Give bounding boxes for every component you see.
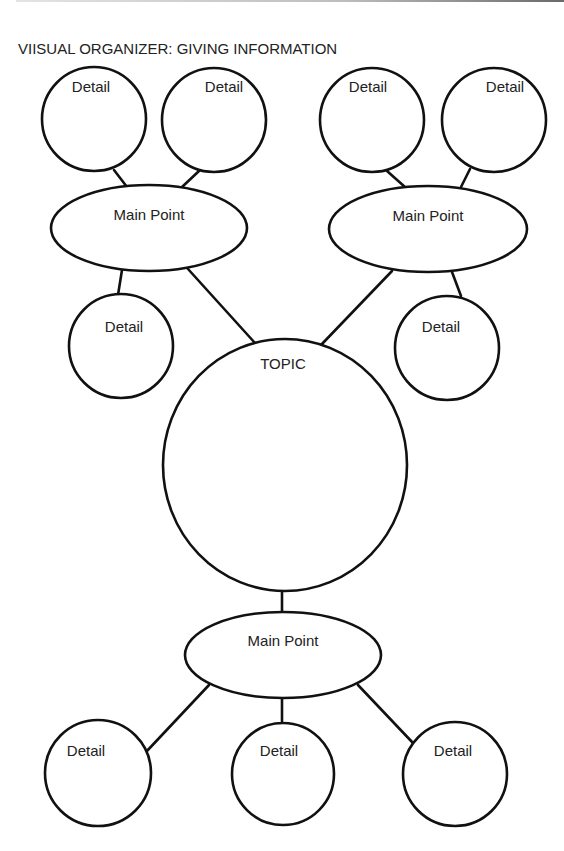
detail-label: Detail [260, 742, 298, 759]
detail-label: Detail [67, 742, 105, 759]
connector-detail-to-main-point [387, 171, 405, 187]
graphic-organizer-diagram: Detail Detail Main Point Detail Detail D… [0, 0, 564, 851]
topic-circle[interactable] [163, 339, 407, 591]
detail-circle[interactable] [232, 723, 334, 825]
cluster-top-right: Detail Detail Main Point Detail [320, 68, 546, 400]
detail-circle[interactable] [403, 722, 507, 826]
detail-label: Detail [72, 78, 110, 95]
detail-circle[interactable] [45, 720, 151, 826]
connector-detail-to-main-point [461, 169, 470, 187]
cluster-bottom: Main Point Detail Detail Detail [45, 612, 507, 826]
detail-label: Detail [205, 78, 243, 95]
detail-label: Detail [434, 742, 472, 759]
topic-node: TOPIC [163, 339, 407, 591]
connector-main-point-to-detail [358, 685, 413, 743]
connector-main-point-to-detail [452, 272, 461, 296]
connector-main-point-to-topic [188, 269, 255, 343]
topic-label: TOPIC [260, 355, 306, 372]
main-point-ellipse[interactable] [329, 186, 527, 272]
detail-label: Detail [349, 78, 387, 95]
main-point-label: Main Point [393, 207, 465, 224]
connector-main-point-to-detail [146, 685, 209, 752]
detail-circle[interactable] [395, 296, 499, 400]
connector-detail-to-main-point [114, 170, 127, 187]
main-point-ellipse[interactable] [185, 612, 381, 698]
detail-circle[interactable] [69, 294, 173, 398]
detail-label: Detail [105, 318, 143, 335]
cluster-top-left: Detail Detail Main Point Detail [42, 67, 266, 398]
connector-detail-to-main-point [182, 171, 199, 187]
main-point-label: Main Point [248, 632, 320, 649]
connector-main-point-to-detail [118, 270, 122, 295]
detail-label: Detail [486, 78, 524, 95]
connector-main-point-to-topic [321, 271, 392, 345]
main-point-ellipse[interactable] [51, 185, 247, 271]
detail-label: Detail [422, 318, 460, 335]
main-point-label: Main Point [114, 206, 186, 223]
